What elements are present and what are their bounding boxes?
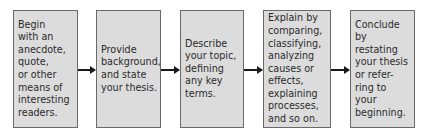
step-1-box: Begin with an anecdote, quote, or other … — [13, 10, 78, 128]
step-5-text: Conclude by restating your thesis or ref… — [355, 19, 410, 120]
step-5-box: Conclude by restating your thesis or ref… — [350, 10, 415, 128]
step-2-box: Provide background, and state your thesi… — [96, 10, 161, 128]
arrow-2-to-3-icon — [161, 69, 179, 71]
step-3-box: Describe your topic, defining any key te… — [180, 10, 244, 128]
step-1-text: Begin with an anecdote, quote, or other … — [18, 19, 70, 120]
step-3-text: Describe your topic, defining any key te… — [185, 38, 236, 101]
step-4-box: Explain by comparing, classifying, analy… — [263, 10, 331, 128]
arrow-1-to-2-icon — [78, 69, 95, 71]
step-2-text: Provide background, and state your thesi… — [101, 44, 161, 94]
arrow-3-to-4-icon — [244, 69, 262, 71]
step-4-text: Explain by comparing, classifying, analy… — [268, 12, 322, 125]
arrow-4-to-5-icon — [331, 69, 349, 71]
